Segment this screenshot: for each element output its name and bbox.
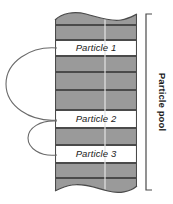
particle-pool-diagram: Particle 1 Particle 2 Particle 3 Particl… [0,0,173,204]
pool-column [55,10,137,194]
bracket-path [146,14,152,190]
link-arc-particle1-particle2 [6,48,57,120]
particle-pool-label: Particle pool [157,73,168,131]
particle-1-label: Particle 1 [76,42,117,53]
particle-pool-bracket [146,14,152,190]
particle-2-label: Particle 2 [76,113,117,124]
particle-3-label: Particle 3 [76,148,117,159]
diagram-canvas: Particle 1 Particle 2 Particle 3 Particl… [0,0,173,204]
column-fill [55,10,137,194]
particle-link-arcs [6,48,57,155]
link-arc-particle2-particle3 [28,121,57,155]
